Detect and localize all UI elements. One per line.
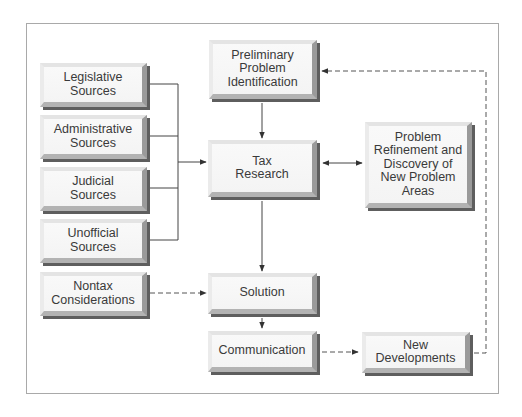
node-solution: Solution bbox=[208, 273, 317, 314]
node-label: Preliminary Problem Identification bbox=[227, 49, 297, 90]
node-problem-refinement: Problem Refinement and Discovery of New … bbox=[365, 122, 472, 208]
node-label: Problem Refinement and Discovery of New … bbox=[374, 131, 462, 199]
node-nontax-considerations: Nontax Considerations bbox=[40, 272, 147, 316]
node-label: Solution bbox=[239, 286, 284, 300]
node-label: Judicial Sources bbox=[70, 175, 116, 202]
node-label: Tax Research bbox=[235, 155, 289, 182]
node-communication: Communication bbox=[208, 331, 317, 372]
node-label: Administrative Sources bbox=[54, 123, 133, 150]
node-administrative-sources: Administrative Sources bbox=[40, 115, 147, 159]
node-unofficial-sources: Unofficial Sources bbox=[40, 219, 147, 263]
feedback-loop-arrow bbox=[322, 71, 486, 353]
node-new-developments: New Developments bbox=[362, 332, 470, 373]
node-label: Nontax Considerations bbox=[51, 280, 134, 307]
node-preliminary-problem-identification: Preliminary Problem Identification bbox=[209, 40, 317, 99]
node-judicial-sources: Judicial Sources bbox=[40, 167, 147, 211]
node-label: New Developments bbox=[376, 339, 456, 366]
node-label: Unofficial Sources bbox=[67, 227, 118, 254]
node-label: Legislative Sources bbox=[63, 71, 122, 98]
node-tax-research: Tax Research bbox=[208, 140, 317, 197]
node-legislative-sources: Legislative Sources bbox=[40, 63, 147, 107]
node-label: Communication bbox=[219, 344, 306, 358]
